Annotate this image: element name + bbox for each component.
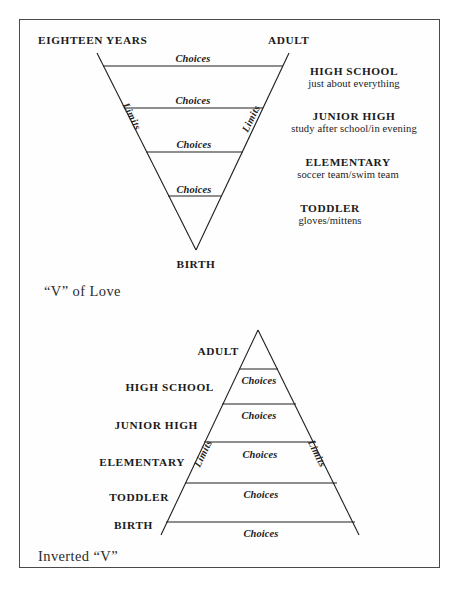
pyramid-stage-birth: BIRTH — [114, 519, 153, 532]
pyramid-left-edge — [161, 330, 258, 535]
pyramid-stage-junior-high: JUNIOR HIGH — [115, 419, 199, 432]
inverted-v-shape — [161, 330, 359, 535]
v-choices-label-1: Choices — [175, 53, 210, 65]
v-of-love-shape — [97, 53, 289, 250]
pyramid-choices-label-4: Choices — [243, 489, 278, 501]
pyramid-right-edge — [258, 330, 359, 535]
inverted-v-caption: Inverted “V” — [38, 548, 118, 564]
v-stage-toddler: TODDLER gloves/mittens — [298, 202, 361, 227]
pyramid-choices-label-5: Choices — [243, 528, 278, 540]
v-stage-junior-high-desc: study after school/in evening — [291, 123, 417, 135]
v-limits-left-label: Limits — [120, 100, 143, 132]
v-stage-elementary-name: ELEMENTARY — [297, 156, 399, 169]
v-of-love-caption: “V” of Love — [44, 283, 121, 299]
v-stage-high-school: HIGH SCHOOL just about everything — [308, 65, 400, 90]
v-top-left-label: EIGHTEEN YEARS — [38, 34, 147, 47]
v-stage-elementary-desc: soccer team/swim team — [297, 169, 399, 181]
diagram-canvas: Limits Limits Limits Limits — [0, 0, 464, 613]
v-stage-high-school-desc: just about everything — [308, 78, 400, 90]
pyramid-stage-toddler: TODDLER — [109, 491, 169, 504]
pyramid-choices-label-1: Choices — [241, 375, 276, 387]
pyramid-limits-left-label: Limits — [191, 438, 214, 470]
v-stage-junior-high-name: JUNIOR HIGH — [291, 110, 417, 123]
v-choices-label-4: Choices — [176, 184, 211, 196]
pyramid-stage-high-school: HIGH SCHOOL — [125, 381, 214, 394]
pyramid-stage-elementary: ELEMENTARY — [99, 456, 185, 469]
v-choices-label-2: Choices — [175, 95, 210, 107]
pyramid-stage-adult: ADULT — [197, 345, 239, 358]
v-stage-junior-high: JUNIOR HIGH study after school/in evenin… — [291, 110, 417, 135]
figure-page: Limits Limits Limits Limits EIGHTEEN YEA… — [0, 0, 464, 613]
v-bottom-label: BIRTH — [176, 258, 215, 271]
v-stage-toddler-name: TODDLER — [298, 202, 361, 215]
v-top-right-label: ADULT — [268, 34, 310, 47]
v-stage-high-school-name: HIGH SCHOOL — [308, 65, 400, 78]
pyramid-limits-right-label: Limits — [305, 437, 328, 469]
v-stage-toddler-desc: gloves/mittens — [298, 215, 361, 227]
pyramid-choices-label-3: Choices — [242, 449, 277, 461]
v-choices-label-3: Choices — [176, 139, 211, 151]
pyramid-choices-label-2: Choices — [241, 410, 276, 422]
v-stage-elementary: ELEMENTARY soccer team/swim team — [297, 156, 399, 181]
